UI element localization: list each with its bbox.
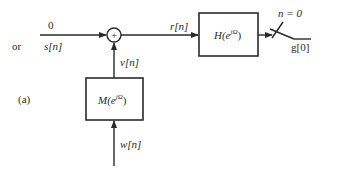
summing-junction: +: [107, 28, 121, 42]
sampler-label: n = 0: [278, 7, 302, 19]
w-signal-label: w[n]: [120, 138, 141, 150]
r-signal-label: r[n]: [170, 20, 188, 32]
block-diagram: 0 or s[n] + r[n] H(ejΩ) n = 0 g[0] v[n] …: [0, 0, 340, 176]
input-label-zero: 0: [48, 19, 54, 31]
input-label-or: or: [12, 40, 22, 52]
v-signal-label: v[n]: [120, 56, 139, 68]
plus-icon: +: [111, 29, 117, 41]
sampler-switch: [270, 22, 311, 39]
input-label-s: s[n]: [44, 40, 62, 52]
output-label: g[0]: [291, 41, 309, 53]
panel-label: (a): [18, 93, 31, 106]
filter-m-block: M(ejΩ): [86, 78, 143, 120]
filter-h-label: H(ejΩ): [213, 28, 242, 42]
filter-m-label: M(ejΩ): [97, 93, 127, 107]
filter-h-block: H(ejΩ): [199, 13, 258, 56]
